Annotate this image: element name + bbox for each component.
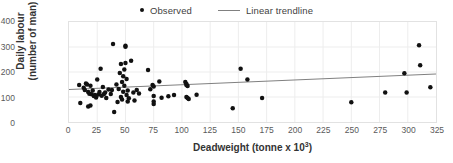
data-point xyxy=(119,62,123,66)
data-point xyxy=(417,43,421,47)
data-point xyxy=(185,84,189,88)
x-tick-label: 50 xyxy=(120,125,129,135)
data-point xyxy=(157,79,161,83)
data-point xyxy=(115,100,119,104)
scatter-chart: Observed Linear trendline 0100200300400 … xyxy=(0,0,453,163)
data-point xyxy=(238,67,242,71)
data-point xyxy=(110,88,114,92)
x-axis-title: Deadweight (tonne x 103) xyxy=(68,141,437,153)
x-tick-label: 0 xyxy=(66,125,71,135)
data-point xyxy=(109,92,113,96)
data-point xyxy=(129,59,133,63)
legend-item-trendline: Linear trendline xyxy=(218,5,313,16)
data-point xyxy=(97,90,101,94)
x-tick-label: 250 xyxy=(345,125,359,135)
data-point xyxy=(77,83,81,87)
plot-canvas xyxy=(69,22,436,122)
x-tick-label: 300 xyxy=(402,125,416,135)
data-point xyxy=(151,84,155,88)
data-point xyxy=(124,77,128,81)
data-point xyxy=(418,63,422,67)
data-point xyxy=(123,44,127,48)
y-axis-title-line1: Daily labour xyxy=(15,12,27,69)
data-point xyxy=(166,94,170,98)
data-point xyxy=(101,85,105,89)
data-point xyxy=(428,85,432,89)
x-tick-label: 125 xyxy=(203,125,217,135)
data-point xyxy=(111,42,115,46)
data-point xyxy=(125,88,129,92)
data-point xyxy=(137,91,141,95)
y-axis-title-line2: (number of man) xyxy=(27,2,39,81)
data-point xyxy=(120,97,124,101)
gridlines xyxy=(69,22,436,122)
data-point xyxy=(404,90,408,94)
data-point xyxy=(122,67,126,71)
data-point xyxy=(98,67,102,71)
data-point xyxy=(383,90,387,94)
data-point xyxy=(122,84,126,88)
data-point xyxy=(123,61,127,65)
data-point xyxy=(127,96,131,100)
data-point xyxy=(116,87,120,91)
data-point xyxy=(112,110,116,114)
legend-label-observed: Observed xyxy=(150,5,192,16)
data-point xyxy=(118,71,122,75)
data-point xyxy=(151,102,155,106)
x-tick-label: 175 xyxy=(260,125,274,135)
legend-label-trendline: Linear trendline xyxy=(246,5,313,16)
x-tick-label: 225 xyxy=(316,125,330,135)
data-point xyxy=(78,101,82,105)
data-point xyxy=(88,84,92,88)
x-tick-label: 25 xyxy=(92,125,101,135)
data-point xyxy=(260,96,264,100)
data-point xyxy=(186,97,190,101)
data-point xyxy=(114,82,118,86)
data-point xyxy=(90,88,94,92)
x-axis-title-main: Deadweight (tonne x 10 xyxy=(193,142,305,153)
data-point xyxy=(245,77,249,81)
data-point xyxy=(172,93,176,97)
data-point xyxy=(121,90,125,94)
legend-item-observed: Observed xyxy=(140,5,192,16)
data-point xyxy=(95,77,99,81)
x-tick-label: 150 xyxy=(231,125,245,135)
trendline-line-icon xyxy=(218,10,240,11)
data-point xyxy=(194,93,198,97)
data-point xyxy=(349,100,353,104)
y-axis-title: Daily labour (number of man) xyxy=(13,0,41,111)
chart-legend: Observed Linear trendline xyxy=(0,2,453,18)
x-tick-label: 325 xyxy=(430,125,444,135)
x-tick-label: 100 xyxy=(174,125,188,135)
data-point xyxy=(402,71,406,75)
data-point xyxy=(103,90,107,94)
x-tick-label: 275 xyxy=(373,125,387,135)
data-point xyxy=(88,103,92,107)
x-axis-title-tail: ) xyxy=(309,142,312,153)
data-point xyxy=(120,80,124,84)
x-tick-label: 200 xyxy=(288,125,302,135)
data-point xyxy=(146,68,150,72)
data-point xyxy=(151,94,155,98)
observed-dot-icon xyxy=(140,8,144,12)
x-tick-label: 75 xyxy=(148,125,157,135)
y-tick-label: 0 xyxy=(0,118,15,128)
data-point xyxy=(132,98,136,102)
data-point xyxy=(104,96,108,100)
plot-area xyxy=(68,21,437,123)
data-point xyxy=(231,106,235,110)
data-point xyxy=(159,96,163,100)
